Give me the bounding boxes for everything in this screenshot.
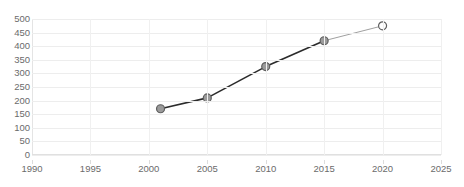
- data-point-marker[interactable]: [157, 105, 165, 113]
- x-axis-tick-label: 1995: [80, 163, 101, 174]
- y-axis-tick-labels: 500450400350300250200150100500: [0, 19, 30, 155]
- gridline-vertical: [90, 19, 91, 155]
- series-line-segment: [161, 98, 208, 109]
- y-axis-tick-label: 250: [4, 82, 30, 92]
- x-axis-tick-label: 1990: [21, 163, 42, 174]
- x-axis-tick-label: 2010: [255, 163, 276, 174]
- gridline-horizontal: [32, 46, 441, 47]
- gridline-vertical: [207, 19, 208, 155]
- y-axis-tick-label: 450: [4, 28, 30, 38]
- gridline-vertical: [441, 19, 442, 155]
- y-axis-tick-label: 100: [4, 123, 30, 133]
- x-axis-tick-labels: 19901995200020052010201520202025: [32, 160, 441, 174]
- y-axis-tick-label: 500: [4, 14, 30, 24]
- gridline-vertical: [324, 19, 325, 155]
- y-axis-tick-label: 400: [4, 41, 30, 51]
- gridline-horizontal: [32, 19, 441, 20]
- x-axis-tick-label: 2000: [138, 163, 159, 174]
- gridline-vertical: [266, 19, 267, 155]
- gridline-vertical: [383, 19, 384, 155]
- series-line-segment: [266, 41, 324, 67]
- gridline-horizontal: [32, 101, 441, 102]
- chart-title: [108, 0, 228, 3]
- series-line-segment: [207, 67, 265, 98]
- y-axis-tick-label: 300: [4, 68, 30, 78]
- y-axis-tick-label: 0: [4, 150, 30, 160]
- x-axis-tick-label: 2005: [197, 163, 218, 174]
- x-axis-tick-label: 2025: [430, 163, 451, 174]
- gridline-horizontal: [32, 60, 441, 61]
- gridline-horizontal: [32, 33, 441, 34]
- gridline-horizontal: [32, 114, 441, 115]
- gridline-horizontal: [32, 73, 441, 74]
- x-axis-tick-label: 2020: [372, 163, 393, 174]
- y-axis-tick-label: 150: [4, 109, 30, 119]
- y-axis-tick-label: 50: [4, 136, 30, 146]
- gridline-horizontal: [32, 141, 441, 142]
- gridline-horizontal: [32, 155, 441, 156]
- x-axis-tick-label: 2015: [314, 163, 335, 174]
- y-axis-tick-label: 200: [4, 96, 30, 106]
- gridline-vertical: [149, 19, 150, 155]
- plot-area: [32, 19, 441, 155]
- gridline-horizontal: [32, 128, 441, 129]
- y-axis-tick-label: 350: [4, 55, 30, 65]
- line-chart: 500450400350300250200150100500 199019952…: [0, 0, 464, 187]
- gridline-horizontal: [32, 87, 441, 88]
